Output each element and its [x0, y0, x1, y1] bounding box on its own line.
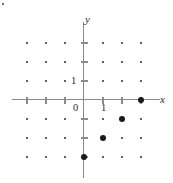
lattice-point — [140, 137, 143, 140]
lattice-point — [26, 80, 29, 83]
lattice-point — [102, 118, 105, 121]
lattice-point — [26, 156, 29, 159]
lattice-point — [140, 118, 143, 121]
y-axis-tick — [81, 118, 88, 119]
lattice-point — [140, 80, 143, 83]
x-tick-label-one: 1 — [101, 103, 106, 114]
lattice-point — [45, 61, 48, 64]
lattice-point — [45, 80, 48, 83]
lattice-point — [121, 42, 124, 45]
corner-speck — [2, 3, 4, 5]
lattice-point — [45, 118, 48, 121]
lattice-point — [64, 42, 67, 45]
lattice-point — [26, 137, 29, 140]
lattice-point — [64, 118, 67, 121]
x-axis-tick — [26, 97, 27, 104]
coordinate-plane-figure: x y 0 1 1 — [0, 0, 173, 183]
lattice-point — [64, 80, 67, 83]
y-axis-tick — [81, 42, 88, 43]
highlighted-lattice-point — [119, 116, 125, 122]
lattice-point — [26, 61, 29, 64]
highlighted-lattice-point — [100, 135, 106, 141]
x-axis-tick — [121, 97, 122, 104]
lattice-point — [140, 61, 143, 64]
y-axis-tick — [81, 137, 88, 138]
lattice-point — [26, 42, 29, 45]
lattice-point — [140, 42, 143, 45]
x-axis-tick — [64, 97, 65, 104]
y-axis-tick — [81, 61, 88, 62]
lattice-point — [140, 156, 143, 159]
highlighted-lattice-point — [81, 154, 87, 160]
origin-label: 0 — [73, 103, 78, 114]
y-axis-tick — [81, 80, 88, 81]
lattice-point — [64, 156, 67, 159]
lattice-point — [102, 80, 105, 83]
highlighted-lattice-point — [138, 97, 144, 103]
lattice-point — [45, 137, 48, 140]
lattice-point — [64, 137, 67, 140]
y-axis-label: y — [85, 14, 90, 25]
x-axis-tick — [45, 97, 46, 104]
lattice-point — [102, 42, 105, 45]
lattice-point — [102, 61, 105, 64]
lattice-point — [45, 42, 48, 45]
y-tick-label-one: 1 — [71, 76, 76, 87]
lattice-point — [121, 80, 124, 83]
lattice-point — [45, 156, 48, 159]
lattice-point — [26, 118, 29, 121]
x-axis-label: x — [160, 94, 165, 105]
lattice-point — [121, 156, 124, 159]
lattice-point — [102, 156, 105, 159]
lattice-point — [64, 61, 67, 64]
lattice-point — [121, 137, 124, 140]
lattice-point — [121, 61, 124, 64]
